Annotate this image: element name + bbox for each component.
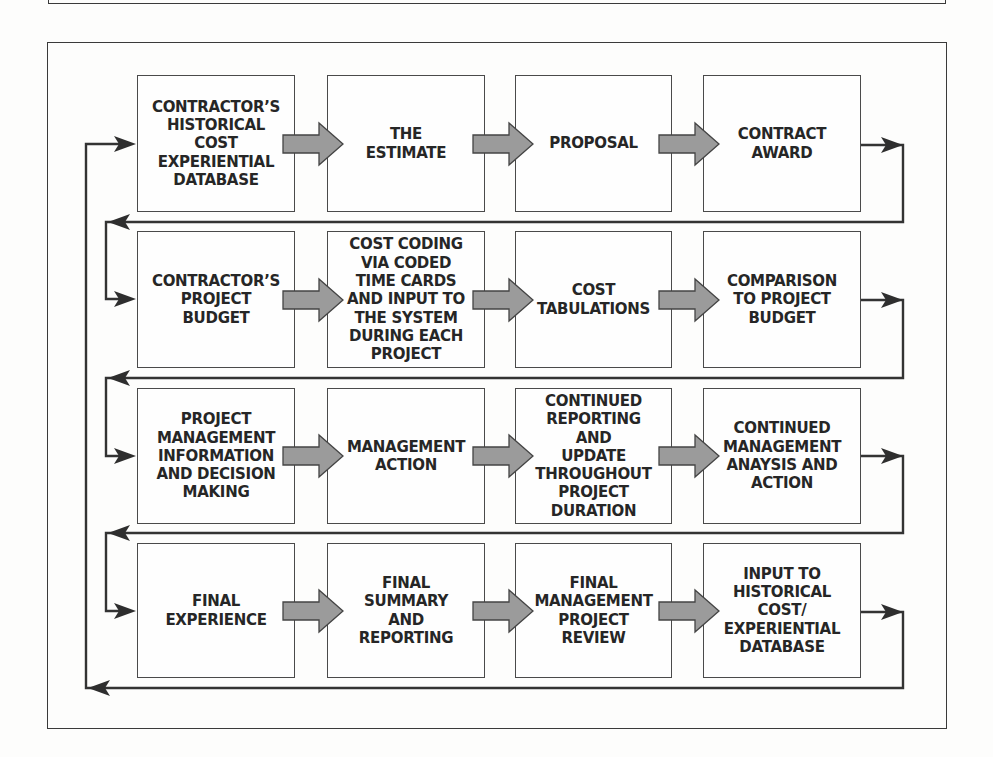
- box-label: FINAL EXPERIENCE: [165, 592, 266, 629]
- box-label: CONTRACTOR’S PROJECT BUDGET: [152, 272, 280, 327]
- flow-box-continued-analysis: CONTINUED MANAGEMENT ANAYSIS AND ACTION: [703, 388, 861, 524]
- box-label: FINAL MANAGEMENT PROJECT REVIEW: [534, 574, 652, 647]
- flow-box-management-action: MANAGEMENT ACTION: [327, 388, 485, 524]
- flow-box-historical-database: CONTRACTOR’S HISTORICAL COST EXPERIENTIA…: [137, 75, 295, 212]
- box-label: CONTINUED REPORTING AND UPDATE THROUGHOU…: [535, 392, 651, 520]
- box-label: PROPOSAL: [549, 134, 638, 152]
- previous-figure-frame: [48, 0, 946, 4]
- flow-box-project-budget: CONTRACTOR’S PROJECT BUDGET: [137, 231, 295, 368]
- box-label: PROJECT MANAGEMENT INFORMATION AND DECIS…: [156, 410, 275, 501]
- flow-box-final-summary: FINAL SUMMARY AND REPORTING: [327, 543, 485, 678]
- flow-box-continued-reporting: CONTINUED REPORTING AND UPDATE THROUGHOU…: [515, 388, 672, 524]
- flow-box-final-review: FINAL MANAGEMENT PROJECT REVIEW: [515, 543, 672, 678]
- box-label: MANAGEMENT ACTION: [347, 438, 465, 475]
- box-label: INPUT TO HISTORICAL COST/ EXPERIENTIAL D…: [724, 565, 840, 656]
- flow-box-cost-tabulations: COST TABULATIONS: [515, 231, 672, 368]
- flow-box-contract-award: CONTRACT AWARD: [703, 75, 861, 212]
- flow-box-cost-coding: COST CODING VIA CODED TIME CARDS AND INP…: [327, 231, 485, 368]
- flow-box-estimate: THE ESTIMATE: [327, 75, 485, 212]
- box-label: CONTRACTOR’S HISTORICAL COST EXPERIENTIA…: [152, 98, 280, 189]
- box-label: FINAL SUMMARY AND REPORTING: [359, 574, 453, 647]
- flow-box-proposal: PROPOSAL: [515, 75, 672, 212]
- flow-box-budget-comparison: COMPARISON TO PROJECT BUDGET: [703, 231, 861, 368]
- box-label: CONTRACT AWARD: [738, 125, 827, 162]
- box-label: CONTINUED MANAGEMENT ANAYSIS AND ACTION: [723, 419, 841, 492]
- flow-box-final-experience: FINAL EXPERIENCE: [137, 543, 295, 678]
- box-label: COST CODING VIA CODED TIME CARDS AND INP…: [347, 235, 465, 363]
- box-label: THE ESTIMATE: [366, 125, 446, 162]
- box-label: COST TABULATIONS: [537, 281, 650, 318]
- flow-box-input-to-database: INPUT TO HISTORICAL COST/ EXPERIENTIAL D…: [703, 543, 861, 678]
- box-label: COMPARISON TO PROJECT BUDGET: [727, 272, 837, 327]
- flow-box-management-information: PROJECT MANAGEMENT INFORMATION AND DECIS…: [137, 388, 295, 524]
